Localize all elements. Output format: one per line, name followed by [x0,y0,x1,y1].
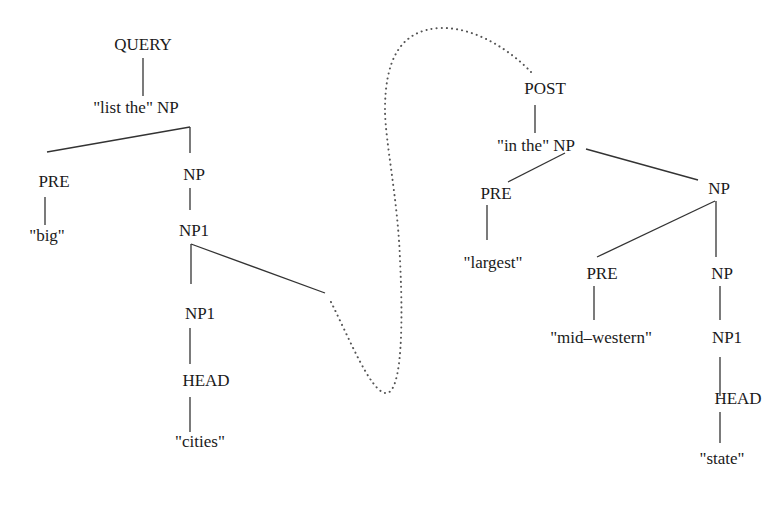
edge-np-pre [47,127,190,152]
edge-np-np-right [586,149,698,180]
node-state: "state" [699,450,744,467]
parse-tree-diagram: QUERY "list the" NP PRE "big" NP NP1 NP1… [0,0,780,508]
node-np-left: NP [183,166,205,183]
node-list-the-np: "list the" NP [93,99,179,116]
dotted-connector-curve [331,28,531,393]
node-query: QUERY [114,36,172,53]
node-big: "big" [29,227,65,244]
node-np2-right: NP [711,265,733,282]
node-pre2-right: PRE [586,265,617,282]
node-post: POST [524,80,566,97]
node-np1-left-b: NP1 [185,305,215,322]
node-largest: "largest" [464,254,523,271]
edge-np1-connector [191,244,325,293]
edge-np-pre-right [508,153,565,182]
edge-np-pre2 [597,201,715,257]
node-np1-right: NP1 [712,329,742,346]
node-np1-left-a: NP1 [179,222,209,239]
node-cities: "cities" [175,433,225,450]
node-np-right: NP [708,180,730,197]
node-head-left: HEAD [182,372,229,389]
node-pre-right: PRE [480,185,511,202]
node-pre-left: PRE [38,173,69,190]
node-head-right: HEAD [714,390,761,407]
node-mid-western: "mid–western" [550,329,652,346]
tree-edges [0,0,780,508]
node-in-the-np: "in the" NP [497,137,575,154]
